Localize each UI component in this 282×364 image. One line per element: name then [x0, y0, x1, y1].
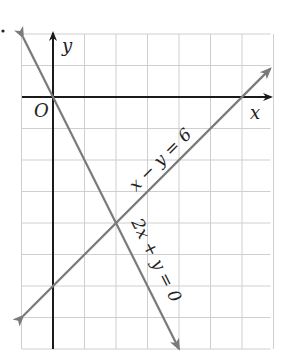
- line-x-minus-y-eq-6: [23, 69, 270, 316]
- bullet-dot: [1, 29, 4, 32]
- x-axis-label: x: [250, 102, 260, 123]
- origin-label: O: [34, 100, 49, 121]
- line-2x-plus-y-eq-0: [23, 37, 179, 349]
- equation-label-2: 2x + y = 0: [127, 214, 186, 305]
- equation-label-1: x − y = 6: [125, 124, 196, 195]
- y-axis-label: y: [61, 35, 73, 56]
- graph-canvas: O y x x − y = 6 2x + y = 0: [0, 0, 282, 364]
